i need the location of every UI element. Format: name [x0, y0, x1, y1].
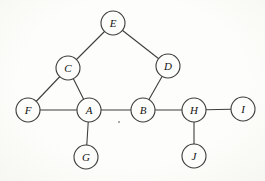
node-label-B: B	[140, 104, 147, 116]
scan-artifact-speck	[118, 121, 120, 123]
node-label-E: E	[109, 17, 117, 29]
node-label-D: D	[163, 60, 172, 72]
node-G: G	[74, 145, 98, 169]
graph-diagram: ECDFABHIGJ	[0, 0, 265, 181]
node-label-G: G	[82, 151, 90, 163]
node-label-F: F	[24, 104, 32, 116]
node-I: I	[231, 97, 255, 121]
node-A: A	[77, 98, 101, 122]
node-label-A: A	[85, 104, 93, 116]
node-label-C: C	[64, 62, 72, 74]
node-label-H: H	[189, 104, 199, 116]
node-B: B	[131, 98, 155, 122]
node-C: C	[56, 56, 80, 80]
node-F: F	[16, 98, 40, 122]
graph-svg: ECDFABHIGJ	[0, 0, 265, 181]
node-E: E	[101, 11, 125, 35]
node-D: D	[156, 54, 180, 78]
node-J: J	[182, 144, 206, 168]
node-H: H	[182, 98, 206, 122]
